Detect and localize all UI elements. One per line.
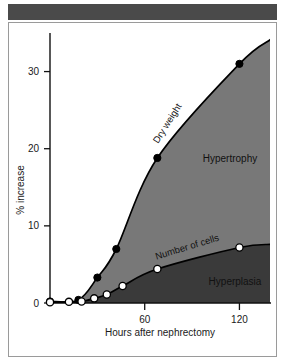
data-point-number-of-cells — [154, 265, 161, 272]
y-axis-tick-labels: 0102030 — [28, 66, 40, 308]
y-tick-label-20: 20 — [28, 143, 40, 154]
data-point-number-of-cells — [78, 298, 85, 305]
y-tick-label-30: 30 — [28, 66, 40, 77]
data-point-number-of-cells — [119, 282, 126, 289]
data-point-dry-weight — [94, 274, 101, 281]
data-point-number-of-cells — [103, 291, 110, 298]
x-axis-ticks — [145, 303, 240, 310]
x-tick-label-60: 60 — [139, 314, 151, 325]
y-axis-title: % increase — [15, 165, 26, 215]
data-point-dry-weight — [113, 245, 120, 252]
x-axis-title: Hours after nephrectomy — [105, 327, 215, 338]
chart-plot: 0102030 60120 % increase Hours after nep… — [0, 0, 285, 363]
y-axis-ticks — [44, 72, 50, 303]
x-axis-tick-labels: 60120 — [139, 314, 248, 325]
data-point-number-of-cells — [46, 299, 53, 306]
data-point-number-of-cells — [91, 295, 98, 302]
x-tick-label-120: 120 — [231, 314, 248, 325]
data-point-dry-weight — [236, 60, 243, 67]
data-point-number-of-cells — [236, 244, 243, 251]
y-tick-label-10: 10 — [28, 220, 40, 231]
data-point-number-of-cells — [65, 298, 72, 305]
region-label-hyperplasia: Hyperplasia — [209, 276, 262, 287]
y-tick-label-0: 0 — [33, 298, 39, 309]
data-point-dry-weight — [154, 154, 161, 161]
region-label-hypertrophy: Hypertrophy — [203, 153, 257, 164]
figure-container: 0102030 60120 % increase Hours after nep… — [0, 0, 285, 363]
